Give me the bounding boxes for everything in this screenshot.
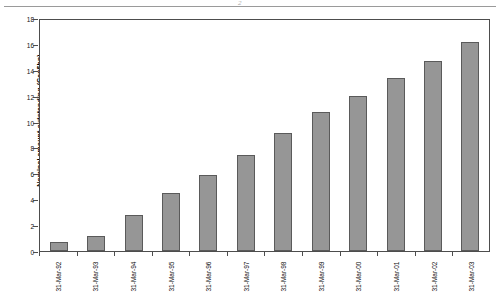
x-tick-label: 31-Mar-00	[355, 258, 362, 296]
x-label-slot: 31-Mar-01	[377, 256, 415, 299]
y-tick-label: 4	[12, 197, 34, 204]
y-tick-label: 10	[12, 119, 34, 126]
bar-slot	[414, 20, 451, 251]
top-rule-mark: 2	[238, 0, 246, 6]
x-label-slot: 31-Mar-02	[415, 256, 453, 299]
y-tick-label: 0	[12, 249, 34, 256]
y-tick-label: 18	[12, 16, 34, 23]
bar-slot	[227, 20, 264, 251]
bar[interactable]	[274, 133, 292, 251]
x-tick-label: 31-Mar-96	[205, 258, 212, 296]
x-tick-mark	[340, 252, 341, 256]
bar[interactable]	[125, 215, 143, 251]
x-tick-mark	[39, 252, 40, 256]
x-tick-label: 31-Mar-97	[242, 258, 249, 296]
bar[interactable]	[199, 175, 217, 251]
bar-slot	[40, 20, 77, 251]
x-label-slot: 31-Mar-97	[227, 256, 265, 299]
x-tick-label: 31-Mar-93	[92, 258, 99, 296]
y-tick-label: 8	[12, 145, 34, 152]
x-label-slot: 31-Mar-93	[77, 256, 115, 299]
x-label-slot: 31-Mar-92	[39, 256, 77, 299]
x-label-slot: 31-Mar-03	[452, 256, 490, 299]
x-tick-label: 31-Mar-99	[317, 258, 324, 296]
bar-slot	[115, 20, 152, 251]
bar[interactable]	[162, 193, 180, 251]
bar-slot	[339, 20, 376, 251]
x-tick-label: 31-Mar-94	[129, 258, 136, 296]
y-tick-mark	[33, 123, 38, 124]
x-tick-mark	[189, 252, 190, 256]
x-axis-labels: 31-Mar-9231-Mar-9331-Mar-9431-Mar-9531-M…	[39, 256, 490, 299]
y-tick-label: 2	[12, 223, 34, 230]
top-divider-rule	[4, 6, 496, 7]
bar[interactable]	[349, 96, 367, 251]
x-tick-label: 31-Mar-92	[54, 258, 61, 296]
x-tick-label: 31-Mar-01	[392, 258, 399, 296]
y-tick-mark	[33, 45, 38, 46]
x-label-slot: 31-Mar-98	[264, 256, 302, 299]
y-tick-mark	[33, 226, 38, 227]
x-tick-mark	[77, 252, 78, 256]
x-tick-mark	[302, 252, 303, 256]
y-tick-mark	[33, 19, 38, 20]
bar-slot	[77, 20, 114, 251]
x-tick-mark	[377, 252, 378, 256]
x-label-slot: 31-Mar-99	[302, 256, 340, 299]
x-label-slot: 31-Mar-94	[114, 256, 152, 299]
y-tick-mark	[33, 71, 38, 72]
y-tick-mark	[33, 252, 38, 253]
x-label-slot: 31-Mar-00	[340, 256, 378, 299]
bar[interactable]	[87, 236, 105, 251]
bar-slot	[302, 20, 339, 251]
plot-area	[39, 19, 490, 252]
x-tick-label: 31-Mar-03	[468, 258, 475, 296]
bar-slot	[190, 20, 227, 251]
x-label-slot: 31-Mar-95	[152, 256, 190, 299]
bar[interactable]	[424, 61, 442, 251]
y-tick-mark	[33, 174, 38, 175]
x-tick-mark	[415, 252, 416, 256]
x-tick-label: 31-Mar-02	[430, 258, 437, 296]
chart-figure: 2 Nominal amount outstanding (Can$bn) 02…	[0, 0, 500, 299]
y-tick-mark	[33, 97, 38, 98]
y-tick-mark	[33, 200, 38, 201]
y-tick-label: 12	[12, 93, 34, 100]
x-tick-mark	[264, 252, 265, 256]
y-tick-label: 14	[12, 67, 34, 74]
bar-slot	[452, 20, 489, 251]
x-tick-mark	[227, 252, 228, 256]
x-tick-mark	[452, 252, 453, 256]
bar[interactable]	[461, 42, 479, 251]
bar[interactable]	[312, 112, 330, 251]
bar-slot	[265, 20, 302, 251]
y-tick-label: 6	[12, 171, 34, 178]
y-tick-mark	[33, 148, 38, 149]
bar[interactable]	[387, 78, 405, 251]
y-tick-label: 16	[12, 41, 34, 48]
bar[interactable]	[50, 242, 68, 251]
bar[interactable]	[237, 155, 255, 251]
x-label-slot: 31-Mar-96	[189, 256, 227, 299]
x-tick-label: 31-Mar-95	[167, 258, 174, 296]
x-tick-mark	[114, 252, 115, 256]
bar-series	[40, 20, 489, 251]
bar-slot	[152, 20, 189, 251]
bar-slot	[377, 20, 414, 251]
x-tick-label: 31-Mar-98	[280, 258, 287, 296]
x-tick-mark	[152, 252, 153, 256]
